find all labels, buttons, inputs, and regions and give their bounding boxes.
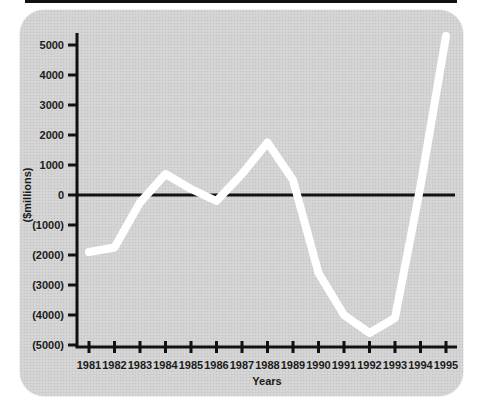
- x-tick-label: 1981: [77, 359, 101, 371]
- y-tick-label: (4000): [32, 309, 64, 321]
- y-tick-label: 0: [58, 189, 64, 201]
- x-tick-label: 1987: [230, 359, 254, 371]
- x-axis-title: Years: [252, 375, 281, 387]
- y-tick-label: (5000): [32, 339, 64, 351]
- y-tick-label: (2000): [32, 249, 64, 261]
- y-tick-label: 3000: [40, 99, 64, 111]
- x-tick-label: 1991: [332, 359, 356, 371]
- y-tick-label: (3000): [32, 279, 64, 291]
- y-tick-labels: 500040003000200010000(1000)(2000)(3000)(…: [32, 39, 64, 351]
- x-tick-label: 1988: [255, 359, 279, 371]
- y-tick-label: 1000: [40, 159, 64, 171]
- chart-canvas: 500040003000200010000(1000)(2000)(3000)(…: [0, 0, 480, 410]
- x-tick-label: 1995: [434, 359, 458, 371]
- y-axis-title: ($millions): [21, 167, 33, 222]
- x-tick-label: 1993: [383, 359, 407, 371]
- x-tick-label: 1984: [153, 359, 178, 371]
- x-tick-label: 1985: [179, 359, 203, 371]
- y-tick-label: 5000: [40, 39, 64, 51]
- x-tick-label: 1982: [102, 359, 126, 371]
- x-tick-label: 1994: [408, 359, 433, 371]
- x-tick-label: 1986: [204, 359, 228, 371]
- y-tick-label: 4000: [40, 69, 64, 81]
- x-tick-label: 1989: [281, 359, 305, 371]
- x-tick-label: 1983: [128, 359, 152, 371]
- y-tick-label: 2000: [40, 129, 64, 141]
- x-tick-label: 1992: [357, 359, 381, 371]
- x-tick-label: 1990: [306, 359, 330, 371]
- x-tick-labels: 1981198219831984198519861987198819891990…: [77, 359, 458, 371]
- data-line-net-income: [89, 36, 446, 333]
- y-tick-label: (1000): [32, 219, 64, 231]
